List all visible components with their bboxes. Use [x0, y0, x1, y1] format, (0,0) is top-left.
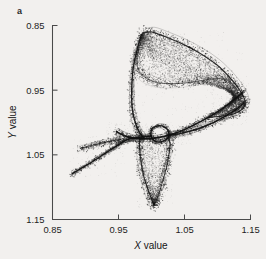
- x-tick-label: 1.05: [175, 224, 193, 235]
- y-tick-label: 1.05: [26, 149, 44, 160]
- y-tick-label: 1.15: [26, 214, 44, 225]
- attractor-plot: 1.151.050.950.85 0.850.951.051.15 X valu…: [0, 0, 266, 259]
- x-axis-tick-labels: 0.850.951.051.15: [43, 224, 259, 235]
- figure-panel: a 1.151.050.950.85 0.850.951.051.15 X va…: [0, 0, 266, 259]
- y-axis-tick-labels: 1.151.050.950.85: [26, 20, 44, 225]
- y-axis-title-rest: value: [7, 105, 18, 132]
- x-axis-tick-marks: [53, 215, 251, 220]
- stipple-point-cloud: [69, 25, 250, 212]
- y-tick-label: 0.85: [26, 20, 44, 31]
- x-tick-label: 0.95: [109, 224, 127, 235]
- x-axis-title-rest: value: [141, 240, 168, 251]
- x-axis-title: X value: [133, 240, 168, 251]
- attractor-filament-curves: [70, 27, 248, 209]
- y-axis-title: Y value: [7, 105, 18, 139]
- x-tick-label: 0.85: [43, 224, 61, 235]
- y-axis-tick-marks: [53, 26, 58, 220]
- y-tick-label: 0.95: [26, 85, 44, 96]
- x-tick-label: 1.15: [241, 224, 259, 235]
